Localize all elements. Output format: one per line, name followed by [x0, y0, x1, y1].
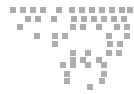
map-dot	[81, 16, 87, 22]
map-dot	[79, 7, 85, 13]
map-dot	[51, 16, 57, 22]
map-dot	[62, 33, 68, 39]
map-dot	[124, 24, 130, 30]
map-dot	[64, 71, 70, 77]
map-dot	[99, 7, 105, 13]
map-dot	[60, 62, 66, 68]
map-dot	[69, 7, 75, 13]
map-dot	[70, 62, 76, 68]
map-dot	[85, 62, 91, 68]
map-dot	[119, 7, 125, 13]
map-dot	[106, 33, 112, 39]
map-dot	[109, 7, 115, 13]
map-dot	[71, 16, 77, 22]
map-dot	[107, 41, 113, 47]
map-dot	[116, 50, 122, 56]
map-dot	[25, 16, 31, 22]
map-dot	[20, 7, 26, 13]
map-dot	[34, 33, 40, 39]
map-dot	[101, 62, 107, 68]
map-dot	[40, 7, 46, 13]
map-dot	[117, 41, 123, 47]
map-dot	[70, 24, 76, 30]
map-dot	[99, 78, 105, 84]
dotted-world-map	[0, 0, 134, 94]
map-dot	[127, 7, 133, 13]
map-dot	[91, 16, 97, 22]
map-dot	[17, 24, 23, 30]
map-dot	[30, 7, 36, 13]
map-dot	[52, 33, 58, 39]
map-dot	[89, 7, 95, 13]
map-dot	[52, 41, 58, 47]
map-dot	[124, 33, 130, 39]
map-dot	[106, 50, 112, 56]
map-dot	[80, 24, 86, 30]
map-dot	[111, 16, 117, 22]
map-dot	[114, 24, 120, 30]
map-dot	[56, 7, 62, 13]
map-dot	[64, 78, 70, 84]
map-dot	[87, 84, 93, 90]
map-dot	[85, 50, 91, 56]
map-dot	[35, 16, 41, 22]
map-dot	[96, 24, 102, 30]
map-dot	[10, 7, 16, 13]
map-dot	[101, 16, 107, 22]
map-dot	[70, 50, 76, 56]
dot-grid	[0, 0, 134, 94]
map-dot	[101, 71, 107, 77]
map-dot	[121, 16, 127, 22]
